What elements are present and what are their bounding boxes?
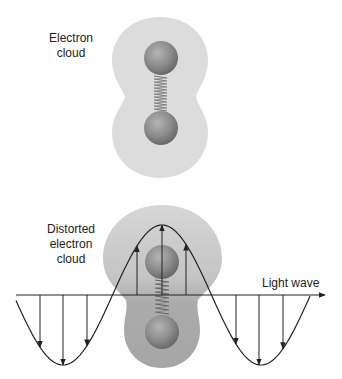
- light-wave-label: Light wave: [262, 276, 319, 291]
- atom-top: [144, 41, 178, 75]
- distorted-cloud-label: Distorted electron cloud: [36, 222, 106, 267]
- atom-bottom: [144, 111, 178, 145]
- polarization-diagram: Electron cloud Distorted electron cloud …: [0, 0, 342, 379]
- electron-cloud-label: Electron cloud: [40, 31, 102, 61]
- undistorted-molecule: [112, 17, 208, 178]
- atom-bottom-distorted: [145, 315, 179, 349]
